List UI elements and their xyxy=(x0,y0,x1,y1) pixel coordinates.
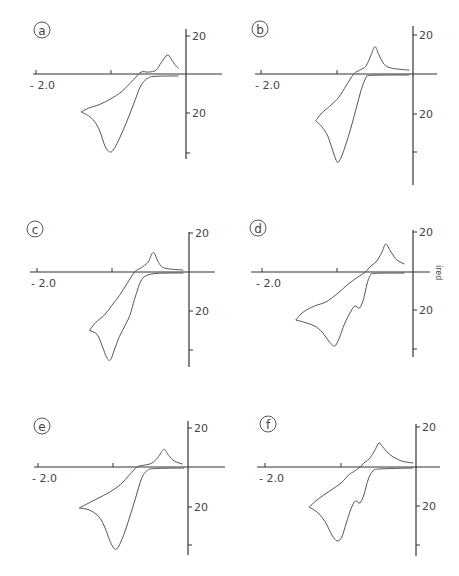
panel-label-e: e xyxy=(34,418,50,434)
y-tick-label: 20 xyxy=(419,108,433,121)
x-tick-label: - 2.0 xyxy=(32,472,57,485)
panel-c: c- 2.02020 xyxy=(27,221,215,367)
y-tick-label: 20 xyxy=(422,421,436,434)
panel-label-b: b xyxy=(252,21,268,37)
cv-curve-anodic-sweep xyxy=(309,443,413,507)
panel-d: d- 2.02020 xyxy=(250,220,433,357)
svg-text:f: f xyxy=(266,418,271,432)
x-tick-label: - 2.0 xyxy=(31,277,56,290)
panel-a: a- 2.02020 xyxy=(30,22,222,159)
x-tick-label: - 2.0 xyxy=(259,472,284,485)
cyclic-voltammogram-figure: a- 2.02020b- 2.02020c- 2.02020d- 2.02020… xyxy=(0,0,459,576)
panel-f: f- 2.02020 xyxy=(257,416,440,556)
cv-curve-cathodic-sweep xyxy=(81,76,179,152)
cv-curve-cathodic-sweep xyxy=(309,468,413,541)
panel-label-d: d xyxy=(250,220,266,236)
y-axis-label: ired xyxy=(434,265,443,280)
y-tick-label: 20 xyxy=(195,227,209,240)
x-tick-label: - 2.0 xyxy=(255,79,280,92)
y-tick-label: 20 xyxy=(419,304,433,317)
cv-curve-cathodic-sweep xyxy=(90,273,184,360)
svg-text:e: e xyxy=(38,420,45,434)
cv-curve-cathodic-sweep xyxy=(296,273,405,346)
y-tick-label: 20 xyxy=(192,107,206,120)
y-tick-label: 20 xyxy=(422,500,436,513)
cv-curve-anodic-sweep xyxy=(81,55,179,112)
y-tick-label: 20 xyxy=(195,305,209,318)
panel-label-a: a xyxy=(34,22,50,38)
y-tick-label: 20 xyxy=(419,29,433,42)
svg-text:d: d xyxy=(254,222,262,236)
svg-text:a: a xyxy=(38,24,45,38)
panel-b: b- 2.02020 xyxy=(252,21,437,185)
y-tick-label: 20 xyxy=(419,226,433,239)
svg-text:c: c xyxy=(32,223,39,237)
svg-text:b: b xyxy=(256,23,264,37)
x-tick-label: - 2.0 xyxy=(30,79,55,92)
y-tick-label: 20 xyxy=(194,501,208,514)
panel-label-c: c xyxy=(27,221,43,237)
y-tick-label: 20 xyxy=(194,422,208,435)
panel-e: e- 2.02020 xyxy=(32,418,225,555)
cv-curve-anodic-sweep xyxy=(316,47,410,121)
panel-label-f: f xyxy=(260,416,276,432)
cv-curve-cathodic-sweep xyxy=(316,75,410,162)
cv-curve-anodic-sweep xyxy=(79,449,183,508)
cv-curve-cathodic-sweep xyxy=(79,468,184,549)
y-tick-label: 20 xyxy=(192,30,206,43)
x-tick-label: - 2.0 xyxy=(256,277,281,290)
cv-curve-anodic-sweep xyxy=(296,244,405,320)
cv-curve-anodic-sweep xyxy=(90,253,184,331)
